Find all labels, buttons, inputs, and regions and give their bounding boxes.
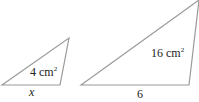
large-triangle — [81, 0, 199, 85]
similar-triangles-diagram: 4cm2 x 16cm2 6 — [0, 0, 199, 102]
large-triangle-base-label: 6 — [137, 87, 143, 101]
small-triangle-area-label: 4cm2 — [30, 65, 58, 79]
large-triangle-area-label: 16cm2 — [151, 46, 185, 60]
small-triangle-base-label: x — [28, 85, 35, 99]
